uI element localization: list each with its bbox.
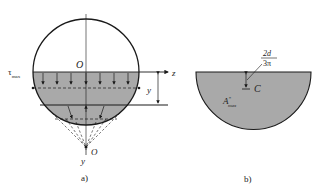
y-axis-label: y (80, 156, 85, 166)
z-axis-label: z (171, 68, 176, 78)
offset-numerator: 2d (263, 49, 272, 58)
diagram-canvas: O τmax z y O y a) C A*max 2d 3π b) (0, 0, 317, 196)
figure-a: O τmax z y O y a) (8, 14, 176, 183)
figure-b: C A*max 2d 3π b) (196, 49, 311, 184)
y-dimension-label: y (146, 85, 151, 95)
centroid-label-C: C (254, 83, 261, 94)
tau-max-label: τmax (8, 67, 21, 79)
semicircle-area (196, 72, 311, 129)
pole-point (85, 146, 88, 149)
pole-label-O: O (91, 147, 98, 157)
caption-b: b) (244, 174, 252, 184)
caption-a: a) (81, 173, 88, 183)
center-label-O: O (76, 59, 83, 70)
edge-point-right (138, 87, 141, 90)
edge-point-left (32, 87, 35, 90)
offset-denominator: 3π (263, 59, 271, 68)
